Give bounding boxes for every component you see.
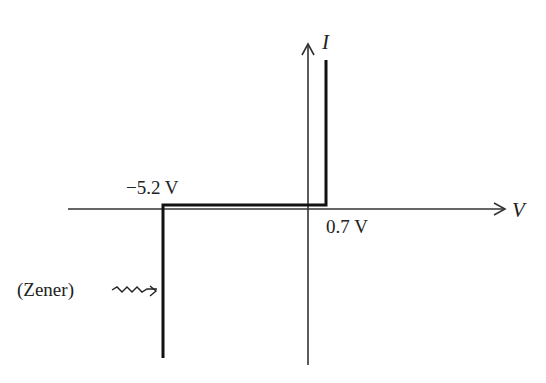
i-axis-label: I xyxy=(322,32,329,53)
forward-voltage-label: 0.7 V xyxy=(326,217,368,236)
v-axis-label: V xyxy=(512,200,525,221)
zener-label: (Zener) xyxy=(17,280,74,299)
breakdown-voltage-label: −5.2 V xyxy=(126,178,179,197)
zener-squiggle-arrow-icon xyxy=(112,287,157,292)
iv-characteristic-plot xyxy=(0,0,546,383)
zener-arrowhead-icon xyxy=(150,286,156,296)
